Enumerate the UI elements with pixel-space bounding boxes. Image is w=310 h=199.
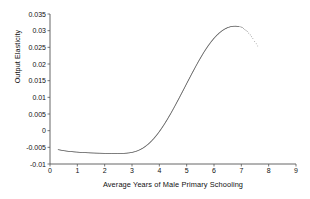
- data-point: [240, 27, 241, 28]
- data-point: [247, 31, 248, 32]
- data-point: [248, 33, 249, 34]
- data-point: [257, 46, 258, 47]
- data-series-points: [58, 26, 258, 154]
- x-axis-title: Average Years of Male Primary Schooling: [50, 180, 296, 189]
- data-point: [241, 27, 242, 28]
- plot-area: [0, 0, 310, 199]
- chart-container: Output Elasticity 0.0350.030.0250.020.01…: [0, 0, 310, 199]
- data-point: [254, 41, 255, 42]
- data-point: [246, 30, 247, 31]
- data-point: [243, 28, 244, 29]
- data-point: [245, 29, 246, 30]
- axis-lines: [50, 14, 296, 164]
- data-point: [239, 26, 240, 27]
- data-point: [250, 35, 251, 36]
- data-point: [251, 36, 252, 37]
- data-point: [256, 43, 257, 44]
- data-point: [242, 27, 243, 28]
- data-point: [253, 38, 254, 39]
